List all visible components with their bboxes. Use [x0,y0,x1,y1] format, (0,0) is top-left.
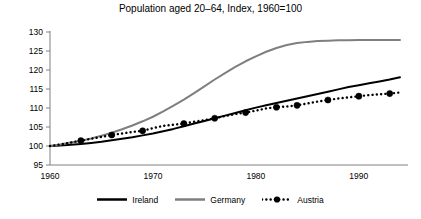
chart-figure: Population aged 20–64, Index, 1960=100 1… [0,0,421,219]
y-axis-tick-label: 105 [29,122,43,132]
series-marker-austria [294,102,300,108]
series-marker-austria [356,93,362,99]
legend-swatch-ireland [97,194,127,205]
legend-label-austria: Austria [297,195,323,205]
x-axis-tick-labels: 1960197019801990 [41,171,369,181]
plot-area: 13012512011511010510095 1960197019801990 [0,0,421,219]
x-axis-tick-label: 1980 [246,171,265,181]
x-axis-tick-label: 1990 [349,171,368,181]
legend-label-ireland: Ireland [132,195,158,205]
y-axis-tick-label: 95 [34,160,44,170]
x-axis-tick-label: 1970 [143,171,162,181]
y-axis-tick-label: 130 [29,27,43,37]
legend-label-germany: Germany [210,195,245,205]
series-marker-austria [273,104,279,110]
y-axis-tick-label: 115 [29,84,43,94]
data-series-group [50,40,400,146]
y-axis-tick-label: 110 [29,103,43,113]
legend-item-germany[interactable]: Germany [175,194,245,205]
series-line-germany [50,40,400,146]
series-marker-austria [212,115,218,121]
series-marker-austria [325,97,331,103]
y-axis-tick-labels: 13012512011511010510095 [29,27,43,170]
chart-legend: IrelandGermanyAustria [0,194,421,205]
legend-swatch-austria [262,194,292,205]
series-marker-austria [242,109,248,115]
series-marker-austria [78,138,84,144]
y-axis-tick-label: 125 [29,46,43,56]
y-axis-tick-label: 100 [29,141,43,151]
series-line-austria [50,92,400,146]
y-axis-tick-label: 120 [29,65,43,75]
series-marker-austria [181,120,187,126]
series-marker-austria [140,128,146,134]
legend-swatch-germany [175,194,205,205]
axis-lines [50,31,408,165]
series-marker-austria [387,90,393,96]
x-axis-tick-label: 1960 [41,171,60,181]
series-marker-austria [109,132,115,138]
legend-item-ireland[interactable]: Ireland [97,194,158,205]
legend-item-austria[interactable]: Austria [262,194,323,205]
